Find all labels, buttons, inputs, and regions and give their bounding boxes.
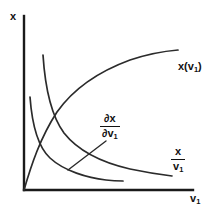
curve-label-marginal-product: ∂x ∂v1 (99, 113, 121, 139)
x-axis-label: v1 (190, 192, 200, 204)
total-product-label-base: x(v (178, 60, 194, 72)
marginal-product-numerator: ∂x (99, 113, 121, 126)
curve-label-average-product: x v1 (170, 146, 186, 172)
marginal-product-denominator-base: ∂v (102, 127, 114, 139)
marginal-product-denominator: ∂v1 (99, 127, 121, 140)
total-product-label-close: ) (198, 60, 202, 72)
marginal-product-denominator-subscript: 1 (114, 132, 118, 141)
marginal-leader-line (68, 141, 106, 170)
average-product-denominator: v1 (170, 160, 186, 173)
figure-container: x v1 x(v1) ∂x ∂v1 x v1 (0, 0, 216, 215)
curve-label-total-product: x(v1) (178, 60, 202, 72)
average-product-denominator-subscript: 1 (179, 165, 183, 174)
plot-canvas (0, 0, 216, 215)
y-axis-label: x (10, 10, 16, 22)
average-product-numerator: x (170, 146, 186, 159)
x-axis-label-subscript: 1 (196, 197, 200, 206)
total-product-label-subscript: 1 (194, 65, 198, 74)
